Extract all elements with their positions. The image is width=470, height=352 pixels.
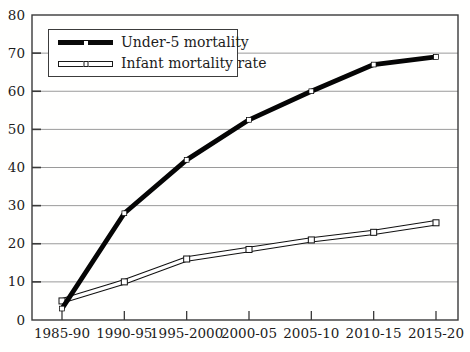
legend-item-infant-mortality: Infant mortality rate: [58, 56, 237, 72]
under5-data-point-2: [184, 157, 189, 162]
y-axis-tick-label: 60: [8, 83, 25, 99]
mortality-trend-chart: 010203040506070801985-901990-951995-2000…: [0, 0, 470, 352]
under5-line-sample-icon: [58, 40, 113, 45]
x-axis-tick-label: 1995-2000: [150, 325, 223, 341]
y-axis-tick-label: 70: [8, 45, 25, 61]
x-axis-tick-label: 1990-95: [96, 325, 152, 341]
under5-data-point-4: [309, 89, 314, 94]
y-axis-tick-label: 40: [8, 159, 25, 175]
y-axis-tick-label: 0: [16, 312, 25, 328]
y-axis-tick-label: 30: [8, 197, 25, 213]
x-axis-tick-label: 2000-05: [221, 325, 277, 341]
legend-item-under5-mortality: Under-5 mortality: [58, 35, 237, 51]
infant-data-point-5: [371, 229, 377, 235]
infant-mortality-line-fill: [62, 223, 436, 301]
infant-data-point-4: [308, 237, 314, 243]
under5-data-point-0: [60, 306, 65, 311]
under5-data-point-1: [122, 211, 127, 216]
y-axis-tick-label: 80: [8, 7, 25, 23]
y-axis-tick-label: 50: [8, 121, 25, 137]
legend-label-under5: Under-5 mortality: [121, 35, 249, 51]
x-axis-tick-label: 1985-90: [34, 325, 90, 341]
x-axis-tick-label: 2015-20: [408, 325, 464, 341]
infant-data-point-6: [433, 220, 439, 226]
under5-mortality-line: [62, 57, 436, 309]
x-axis-tick-label: 2010-15: [346, 325, 402, 341]
y-axis-tick-label: 20: [8, 235, 25, 251]
legend-label-infant: Infant mortality rate: [121, 56, 266, 72]
y-axis-tick-label: 10: [8, 273, 25, 289]
chart-legend: Under-5 mortality Infant mortality rate: [48, 29, 238, 77]
under5-data-point-6: [434, 55, 439, 60]
under5-data-point-3: [247, 117, 252, 122]
infant-data-point-3: [246, 246, 252, 252]
infant-mortality-line-outline: [62, 223, 436, 301]
x-axis-tick-label: 2005-10: [283, 325, 339, 341]
infant-line-sample-icon: [58, 61, 113, 67]
infant-data-point-2: [184, 256, 190, 262]
infant-data-point-1: [121, 279, 127, 285]
under5-data-point-5: [371, 62, 376, 67]
